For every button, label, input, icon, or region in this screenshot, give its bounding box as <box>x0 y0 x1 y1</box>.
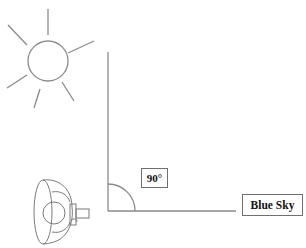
blue-sky-label: Blue Sky <box>242 194 303 216</box>
polarizer-camera-icon <box>34 180 89 244</box>
angle-label: 90° <box>141 168 168 188</box>
right-angle-axes <box>108 52 236 211</box>
right-angle-arc <box>108 184 135 211</box>
sun-icon <box>7 9 94 108</box>
